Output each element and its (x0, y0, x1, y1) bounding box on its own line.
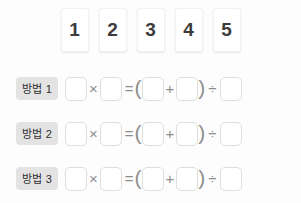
number-card-3[interactable]: 3 (137, 8, 165, 52)
number-card-4[interactable]: 4 (175, 8, 203, 52)
row-label-2: 방법 2 (16, 122, 58, 145)
answer-slot-1-1[interactable] (65, 77, 87, 101)
equation-row-3: 방법 3 × = ( + ) ÷ (0, 156, 301, 201)
multiply-operator: × (87, 171, 100, 186)
answer-slot-1-4[interactable] (176, 77, 198, 101)
equals-operator: = (122, 126, 135, 141)
answer-slot-2-4[interactable] (176, 122, 198, 146)
divide-operator: ÷ (205, 126, 219, 141)
answer-slot-3-2[interactable] (100, 167, 122, 191)
plus-operator: + (164, 171, 177, 186)
answer-slot-1-3[interactable] (142, 77, 164, 101)
paren-close: ) (198, 77, 205, 98)
paren-close: ) (198, 122, 205, 143)
paren-open: ( (135, 77, 142, 98)
multiply-operator: × (87, 81, 100, 96)
equation-body-1: × = ( + ) ÷ (65, 77, 242, 101)
number-card-tray: 1 2 3 4 5 (0, 0, 301, 60)
answer-slot-2-5[interactable] (220, 122, 242, 146)
equals-operator: = (122, 171, 135, 186)
equation-row-2: 방법 2 × = ( + ) ÷ (0, 111, 301, 156)
equation-row-1: 방법 1 × = ( + ) ÷ (0, 66, 301, 111)
equation-body-2: × = ( + ) ÷ (65, 122, 242, 146)
answer-slot-3-1[interactable] (65, 167, 87, 191)
row-label-3: 방법 3 (16, 167, 58, 190)
answer-slot-3-5[interactable] (220, 167, 242, 191)
equals-operator: = (122, 81, 135, 96)
number-card-2[interactable]: 2 (99, 8, 127, 52)
equation-body-3: × = ( + ) ÷ (65, 167, 242, 191)
number-card-5[interactable]: 5 (213, 8, 241, 52)
number-card-1[interactable]: 1 (61, 8, 89, 52)
multiply-operator: × (87, 126, 100, 141)
answer-slot-1-5[interactable] (220, 77, 242, 101)
plus-operator: + (164, 81, 177, 96)
paren-open: ( (135, 167, 142, 188)
divide-operator: ÷ (205, 171, 219, 186)
paren-close: ) (198, 167, 205, 188)
answer-slot-3-3[interactable] (142, 167, 164, 191)
answer-slot-3-4[interactable] (176, 167, 198, 191)
row-label-1: 방법 1 (16, 77, 58, 100)
answer-slot-1-2[interactable] (100, 77, 122, 101)
plus-operator: + (164, 126, 177, 141)
paren-open: ( (135, 122, 142, 143)
divide-operator: ÷ (205, 81, 219, 96)
answer-slot-2-3[interactable] (142, 122, 164, 146)
answer-slot-2-1[interactable] (65, 122, 87, 146)
answer-slot-2-2[interactable] (100, 122, 122, 146)
equation-rows: 방법 1 × = ( + ) ÷ 방법 2 × = ( + ) ÷ (0, 60, 301, 203)
